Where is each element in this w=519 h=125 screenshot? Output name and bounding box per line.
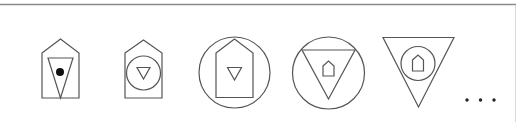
dot-icon — [56, 68, 64, 76]
inverted-triangle-icon — [302, 50, 355, 99]
house-icon — [125, 40, 162, 98]
ellipsis-dot — [465, 98, 468, 101]
symbol-sequence-diagram — [0, 0, 519, 125]
circle-icon — [401, 47, 435, 81]
shape-2-house-circle-triangle — [125, 40, 162, 98]
ellipsis-continuation — [465, 98, 495, 101]
ellipsis-dot — [479, 98, 482, 101]
inverted-triangle-icon — [48, 58, 73, 98]
shape-3-circle-house-triangle — [199, 37, 270, 108]
shape-1-house-triangle-dot — [42, 39, 79, 98]
house-icon — [323, 61, 334, 76]
shape-5-triangle-circle-house — [383, 38, 454, 108]
house-icon — [216, 39, 253, 98]
inverted-triangle-icon — [383, 38, 454, 108]
inverted-triangle-icon — [228, 68, 242, 81]
shape-4-circle-triangle-house — [293, 37, 365, 109]
ellipsis-dot — [492, 98, 495, 101]
inverted-triangle-icon — [137, 68, 150, 80]
house-icon — [413, 55, 424, 71]
circle-icon — [127, 56, 161, 90]
